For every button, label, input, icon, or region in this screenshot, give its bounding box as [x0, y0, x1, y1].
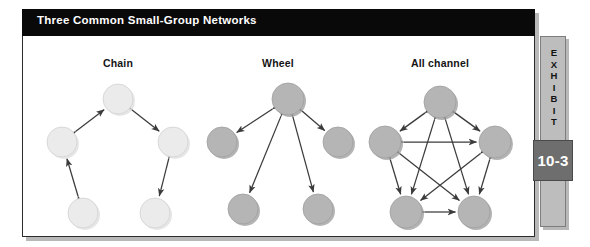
edge-chain-mid-right-to-bottom-right [159, 159, 168, 196]
diagram-label-all-channel: All channel [411, 57, 469, 69]
exhibit-title: Three Common Small-Group Networks [37, 14, 257, 26]
exhibit-tab-letter-2: H [541, 70, 567, 82]
node-chain-top [103, 84, 133, 114]
exhibit-number-badge: 10-3 [533, 140, 573, 181]
edge-all-channel-left-to-bottom-left [390, 160, 400, 195]
exhibit-tab-letter-5: I [541, 105, 567, 117]
node-chain-mid-right [158, 127, 188, 157]
exhibit-tab-letter-3: I [541, 82, 567, 94]
edges-layer [67, 109, 490, 212]
exhibit-number: 10-3 [537, 152, 568, 169]
exhibit-tab-letter-1: X [541, 59, 567, 71]
edge-all-channel-top-to-bottom-right [445, 120, 468, 195]
edge-chain-mid-left-to-top [76, 110, 104, 132]
diagram-label-wheel: Wheel [262, 57, 294, 69]
network-diagrams-svg: ChainWheelAll channel [22, 36, 535, 237]
node-chain-mid-left [47, 127, 77, 157]
edge-all-channel-right-to-bottom-right [479, 160, 489, 195]
exhibit-panel: Three Common Small-Group Networks ChainW… [22, 9, 535, 237]
edge-chain-bottom-left-to-mid-left [67, 159, 78, 196]
exhibit-tab-label: EXHIBIT [541, 47, 567, 128]
edge-wheel-center-to-bottom-right [293, 117, 314, 192]
exhibit-figure: Three Common Small-Group Networks ChainW… [0, 0, 590, 247]
node-all-channel-bottom-right [458, 196, 490, 228]
node-wheel-center [272, 83, 304, 115]
edge-wheel-center-to-right [302, 111, 325, 131]
nodes-layer [47, 83, 513, 230]
exhibit-title-bar: Three Common Small-Group Networks [22, 9, 535, 36]
node-wheel-left [207, 127, 237, 157]
edge-chain-top-to-mid-right [132, 110, 159, 131]
edge-all-channel-top-to-right [455, 113, 480, 131]
edge-wheel-center-to-left [237, 109, 273, 132]
diagram-label-chain: Chain [103, 57, 133, 69]
node-wheel-right [323, 127, 353, 157]
node-chain-bottom-left [68, 198, 98, 228]
edge-all-channel-top-to-left [400, 113, 425, 131]
edge-all-channel-top-to-bottom-left [411, 120, 434, 195]
node-all-channel-right [479, 126, 511, 158]
node-all-channel-top [424, 86, 456, 118]
exhibit-tab-letter-0: E [541, 47, 567, 59]
node-wheel-bottom-right [303, 194, 333, 224]
network-diagrams-canvas: ChainWheelAll channel [22, 36, 535, 237]
exhibit-tab-strip: EXHIBIT [540, 36, 566, 227]
labels-layer: ChainWheelAll channel [103, 57, 469, 69]
edge-wheel-center-to-bottom-left [250, 116, 281, 193]
node-wheel-bottom-left [228, 194, 258, 224]
node-all-channel-left [369, 126, 401, 158]
node-chain-bottom-right [140, 198, 170, 228]
exhibit-tab-letter-4: B [541, 93, 567, 105]
exhibit-tab-letter-6: T [541, 116, 567, 128]
node-all-channel-bottom-left [390, 196, 422, 228]
